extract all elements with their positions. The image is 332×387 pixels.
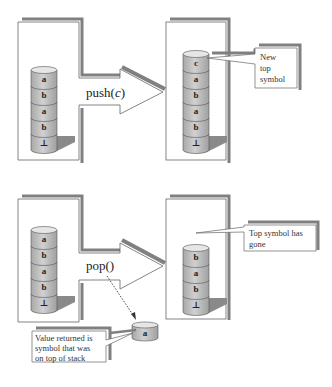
stack-symbol: c xyxy=(194,58,198,68)
stack-symbol: b xyxy=(193,90,198,100)
stack-symbol: b xyxy=(41,90,46,100)
callout-line: Value returned is xyxy=(35,333,93,343)
stack-symbol: b xyxy=(193,122,198,132)
callout-line: Top symbol has xyxy=(249,228,303,238)
stack-symbol: a xyxy=(194,106,199,116)
callout-line: gone xyxy=(249,239,266,249)
callout-line: symbol xyxy=(260,74,286,84)
push-operation-label: push(c) xyxy=(86,85,125,100)
callout-line: top xyxy=(260,63,271,73)
callout-line: symbol that was xyxy=(35,343,90,353)
stack-operations-diagram: push(c) abab⊥ cabab⊥ New top symbol pop(… xyxy=(0,0,332,387)
stack-symbol: b xyxy=(41,122,46,132)
stack-symbol: ⊥ xyxy=(192,138,201,148)
stack-symbol: a xyxy=(42,234,47,244)
stack-symbol: ⊥ xyxy=(40,298,49,308)
stack-symbol: b xyxy=(193,252,198,262)
stack-symbol: b xyxy=(41,282,46,292)
value-returned-callout: Value returned is symbol that was on top… xyxy=(32,328,136,363)
stack-symbol: a xyxy=(42,266,47,276)
stack-symbol: a xyxy=(42,74,47,84)
stack-symbol: ⊥ xyxy=(40,138,49,148)
stack-symbol: ⊥ xyxy=(192,300,201,310)
returned-value: a xyxy=(143,328,148,338)
stack-symbol: a xyxy=(194,74,199,84)
stack-symbol: b xyxy=(193,284,198,294)
callout-line: on top of stack xyxy=(35,353,86,363)
callout-line: New xyxy=(260,52,277,62)
stack-symbol: b xyxy=(41,250,46,260)
stack-symbol: a xyxy=(42,106,47,116)
returned-value-cylinder: a xyxy=(132,322,158,341)
stack-symbol: a xyxy=(194,268,199,278)
pop-operation-label: pop() xyxy=(86,258,114,273)
